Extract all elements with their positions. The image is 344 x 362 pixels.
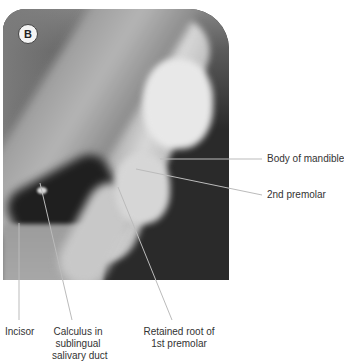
label-calculus-line2: sublingual (52, 338, 104, 350)
label-calculus: Calculus in sublingual salivary duct (52, 326, 104, 362)
label-2nd-premolar: 2nd premolar (267, 189, 326, 201)
label-incisor: Incisor (5, 326, 34, 338)
label-calculus-line3: salivary duct (52, 350, 104, 362)
label-retained-root: Retained root of 1st premolar (140, 326, 218, 350)
label-calculus-line1: Calculus in (52, 326, 104, 338)
label-retained-root-line1: Retained root of (140, 326, 218, 338)
label-retained-root-line2: 1st premolar (140, 338, 218, 350)
label-body-of-mandible: Body of mandible (267, 153, 344, 165)
